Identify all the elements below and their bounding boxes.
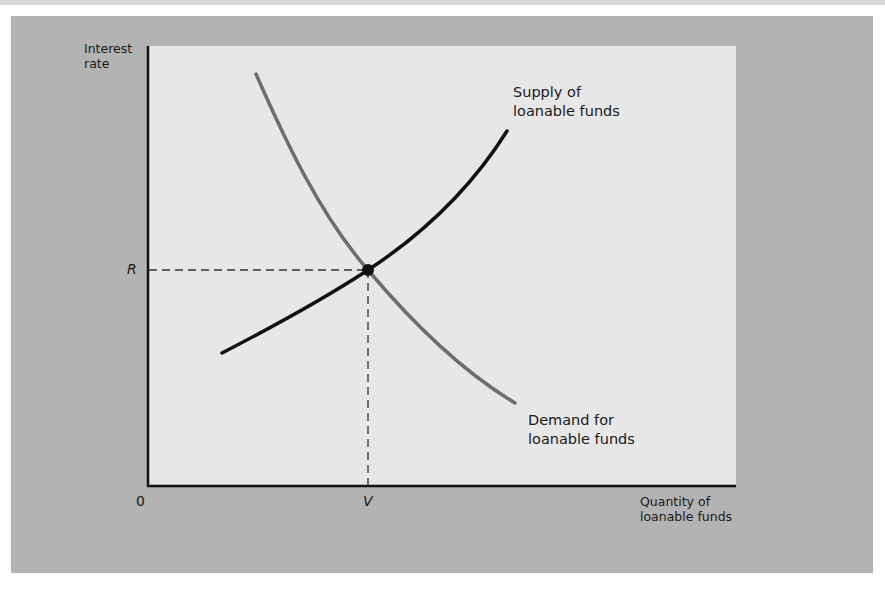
- supply-label-line1: Supply of: [513, 83, 581, 102]
- supply-label-line2: loanable funds: [513, 102, 620, 121]
- demand-label-line1: Demand for: [528, 411, 614, 430]
- origin-label: 0: [136, 494, 145, 509]
- y-axis-label-line2: rate: [84, 56, 109, 71]
- x-axis-label-line1: Quantity of: [640, 494, 710, 509]
- y-axis-label-line1: Interest: [84, 41, 132, 56]
- demand-label-line2: loanable funds: [528, 430, 635, 449]
- x-axis-label-line2: loanable funds: [640, 509, 732, 524]
- y-tick-r: R: [127, 262, 137, 277]
- supply-curve: [222, 131, 507, 353]
- equilibrium-point: [362, 264, 374, 276]
- x-tick-v: V: [363, 494, 373, 509]
- chart-svg: [0, 0, 885, 589]
- demand-curve: [256, 74, 515, 403]
